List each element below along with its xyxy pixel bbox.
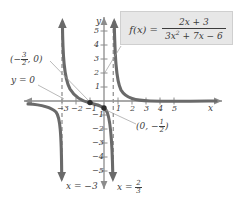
curve-arrow-left-down (57, 172, 66, 182)
annotation-vertical-asymptote-right-prefix: x = (117, 182, 132, 192)
formula-fraction: 2x + 3 3x2 + 7x − 6 (162, 17, 226, 42)
formula-content: f(x) = 2x + 3 3x2 + 7x − 6 (121, 12, 234, 46)
y-tick-label-neg2: −2 (92, 125, 104, 133)
x-tick-label-neg2: −2 (71, 105, 83, 113)
annotation-horizontal-asymptote: y = 0 (11, 76, 35, 85)
curve-branch-left (28, 104, 62, 175)
y-tick-label-4: 4 (94, 41, 99, 49)
annotation-vertical-asymptote-left: x = −3 (66, 182, 98, 191)
annotation-x-intercept: (− 3 2 , 0) (10, 52, 43, 67)
annotation-x-intercept-open: (− (10, 54, 21, 64)
rational-function-figure: f(x) = 2x + 3 3x2 + 7x − 6 x y −3 −2 −1 … (0, 0, 236, 203)
leader-callout (104, 46, 121, 74)
formula-numerator: 2x + 3 (162, 17, 226, 28)
y-tick-label-neg1: −1 (92, 111, 104, 119)
x-tick-label-5: 5 (172, 105, 177, 113)
x-tick-label-2: 2 (130, 105, 135, 113)
y-tick-label-5: 5 (94, 27, 99, 35)
annotation-vertical-asymptote-right-fraction: 2 3 (135, 180, 141, 195)
y-tick-label-3: 3 (94, 55, 99, 63)
curve-arrow-middle-up (58, 18, 67, 28)
x-tick-label-4: 4 (158, 105, 163, 113)
annotation-vertical-asymptote-right-denominator: 3 (135, 187, 141, 195)
y-axis-name: y (96, 17, 101, 26)
y-tick-label-neg4: −4 (92, 153, 104, 161)
formula-fx-label: f(x) = (129, 24, 158, 35)
y-tick-label-2: 2 (94, 69, 99, 77)
annotation-y-intercept-open: (0, − (136, 121, 159, 131)
leader-y-eq-0 (38, 85, 64, 99)
annotation-vertical-asymptote-right-numerator: 2 (135, 180, 141, 187)
annotation-y-intercept-close: ) (165, 121, 169, 131)
formula-denominator: 3x2 + 7x − 6 (162, 28, 226, 41)
formula-denominator-a: 3x (165, 31, 176, 41)
annotation-x-intercept-close: , 0) (28, 54, 43, 64)
y-axis-arrow-up (101, 17, 108, 25)
y-tick-label-neg3: −3 (92, 139, 104, 147)
y-axis-arrow-down (101, 181, 108, 189)
x-tick-label-3: 3 (144, 105, 149, 113)
formula-denominator-b: + 7x − 6 (180, 31, 223, 41)
x-axis-name: x (208, 104, 213, 113)
curve-arrow-right-up (110, 18, 119, 28)
curve-arrow-middle-down (109, 172, 118, 182)
y-tick-label-1: 1 (95, 83, 100, 91)
x-tick-label-neg3: −3 (57, 105, 69, 113)
annotation-vertical-asymptote-right: x = 2 3 (117, 180, 142, 195)
formula-callout-box: f(x) = 2x + 3 3x2 + 7x − 6 (120, 11, 233, 45)
x-tick-label-1: 1 (116, 105, 121, 113)
y-tick-label-neg5: −5 (92, 167, 104, 175)
annotation-y-intercept: (0, − 1 2 ) (136, 119, 168, 134)
